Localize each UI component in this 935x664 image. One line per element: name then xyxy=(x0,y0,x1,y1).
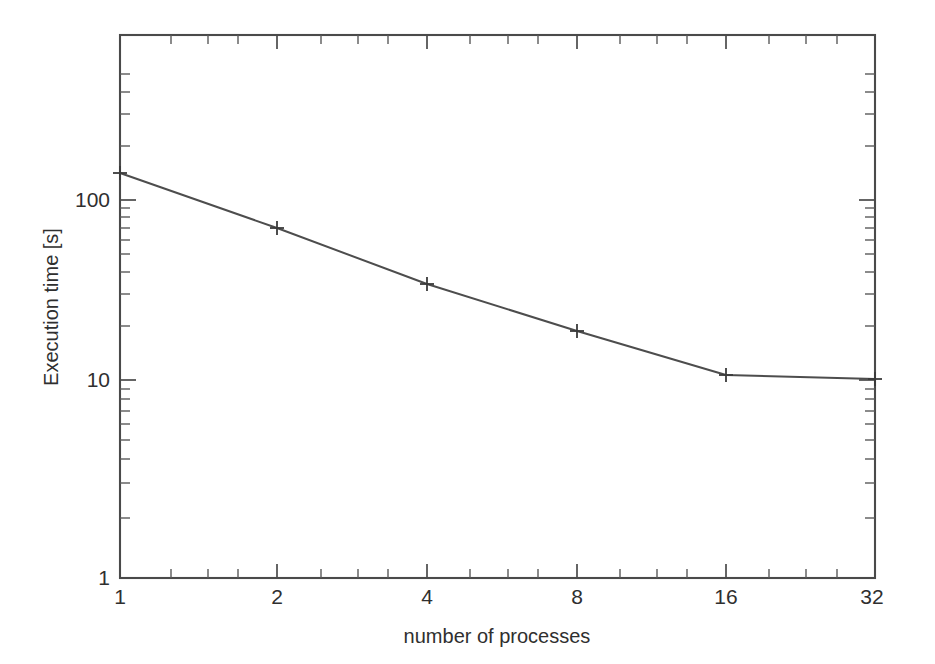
y-axis-title: Execution time [s] xyxy=(40,228,62,386)
y-tick-label-10: 10 xyxy=(87,368,110,391)
x-axis-title: number of processes xyxy=(404,625,591,647)
x-tick-label-8: 8 xyxy=(571,585,583,608)
y-axis-tick-labels: 100 10 1 xyxy=(75,188,110,589)
y-tick-label-100: 100 xyxy=(75,188,110,211)
x-tick-label-16: 16 xyxy=(714,585,737,608)
line-chart-svg: 100 10 1 Execution time [s] xyxy=(0,0,935,664)
x-tick-label-4: 4 xyxy=(421,585,433,608)
x-tick-label-1: 1 xyxy=(114,585,126,608)
y-tick-label-1: 1 xyxy=(98,566,110,589)
x-axis-tick-labels: 1 2 4 8 16 32 xyxy=(114,585,884,608)
chart-figure: 100 10 1 Execution time [s] xyxy=(0,0,935,664)
x-tick-label-32: 32 xyxy=(860,585,883,608)
x-tick-label-2: 2 xyxy=(271,585,283,608)
